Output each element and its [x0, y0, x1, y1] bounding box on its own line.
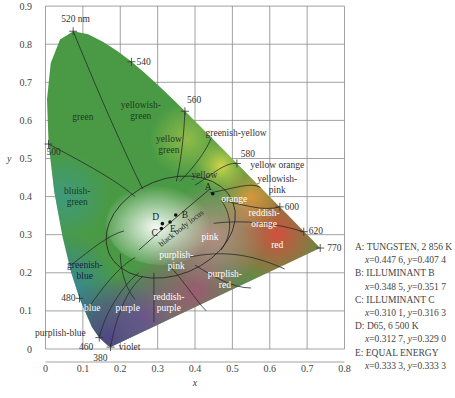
- svg-text:0.4: 0.4: [20, 191, 33, 202]
- svg-text:0.6: 0.6: [264, 363, 277, 374]
- svg-text:green: green: [158, 145, 179, 155]
- svg-text:0.6: 0.6: [20, 115, 33, 126]
- svg-text:violet: violet: [119, 342, 141, 352]
- svg-text:orange: orange: [221, 194, 247, 204]
- svg-text:0.8: 0.8: [20, 39, 33, 50]
- legend-entry-coords: x=0.348 5, y=0.351 7: [355, 281, 452, 294]
- svg-text:B: B: [182, 210, 188, 220]
- svg-text:purplish-: purplish-: [159, 250, 193, 260]
- svg-text:0.1: 0.1: [77, 363, 90, 374]
- svg-text:bluish-: bluish-: [64, 186, 90, 196]
- legend-entry-title: D: D65, 6 500 K: [355, 320, 452, 333]
- svg-text:480: 480: [61, 293, 76, 303]
- svg-text:0.3: 0.3: [151, 363, 164, 374]
- svg-text:620: 620: [309, 226, 324, 236]
- svg-text:0.7: 0.7: [301, 363, 314, 374]
- svg-text:reddish-: reddish-: [249, 208, 280, 218]
- svg-text:pink: pink: [202, 232, 219, 242]
- svg-text:500: 500: [46, 147, 61, 157]
- svg-text:0: 0: [27, 344, 32, 355]
- svg-text:0.4: 0.4: [189, 363, 202, 374]
- svg-text:0.3: 0.3: [20, 229, 33, 240]
- svg-text:D: D: [152, 212, 159, 222]
- svg-text:greenish-yellow: greenish-yellow: [206, 128, 267, 138]
- legend-entry-title: C: ILLUMINANT C: [355, 294, 452, 307]
- svg-text:0.9: 0.9: [20, 1, 33, 12]
- illuminant-legend: A: TUNGSTEN, 2 856 Kx=0.447 6, y=0.407 4…: [355, 241, 452, 373]
- svg-text:0.2: 0.2: [114, 363, 127, 374]
- svg-text:yellow orange: yellow orange: [250, 160, 304, 170]
- svg-text:A: A: [205, 182, 212, 192]
- svg-text:580: 580: [241, 149, 256, 159]
- svg-text:540: 540: [136, 57, 151, 67]
- svg-text:purplish-: purplish-: [208, 269, 242, 279]
- svg-text:blue: blue: [84, 303, 100, 313]
- svg-text:770: 770: [327, 243, 342, 253]
- svg-text:x: x: [192, 377, 198, 388]
- svg-text:yellow: yellow: [156, 134, 182, 144]
- svg-text:0: 0: [43, 363, 48, 374]
- svg-text:0.2: 0.2: [20, 267, 33, 278]
- svg-text:560: 560: [187, 95, 202, 105]
- svg-text:520 nm: 520 nm: [61, 14, 90, 24]
- svg-text:380: 380: [93, 353, 108, 363]
- svg-text:C: C: [151, 228, 157, 238]
- svg-text:reddish-: reddish-: [153, 292, 184, 302]
- svg-text:yellow: yellow: [191, 170, 217, 180]
- svg-text:green: green: [130, 111, 151, 121]
- svg-text:600: 600: [285, 202, 300, 212]
- legend-entry-coords: x=0.310 1, y=0.316 3: [355, 307, 452, 320]
- legend-entry-coords: x=0.447 6, y=0.407 4: [355, 254, 452, 267]
- svg-text:purple: purple: [157, 303, 181, 313]
- legend-entry-title: B: ILLUMINANT B: [355, 267, 452, 280]
- svg-text:greenish-: greenish-: [67, 260, 102, 270]
- legend-entry-coords: x=0.312 7, y=0.329 0: [355, 333, 452, 346]
- legend-entry-coords: x=0.333 3, y=0.333 3: [355, 360, 452, 373]
- svg-text:green: green: [72, 112, 93, 122]
- legend-entry-title: E: EQUAL ENERGY: [355, 347, 452, 360]
- svg-text:pink: pink: [168, 261, 185, 271]
- svg-text:pink: pink: [269, 185, 286, 195]
- svg-text:green: green: [67, 197, 88, 207]
- svg-text:E: E: [170, 224, 176, 234]
- svg-text:red: red: [271, 240, 283, 250]
- svg-text:purplish-blue: purplish-blue: [35, 328, 86, 338]
- svg-text:yellowish-: yellowish-: [121, 100, 161, 110]
- svg-text:0.8: 0.8: [338, 363, 351, 374]
- svg-text:y: y: [6, 153, 12, 164]
- svg-text:purple: purple: [116, 303, 140, 313]
- svg-text:0.1: 0.1: [20, 305, 33, 316]
- svg-text:460: 460: [79, 342, 94, 352]
- svg-text:orange: orange: [251, 219, 277, 229]
- legend-entry-title: A: TUNGSTEN, 2 856 K: [355, 241, 452, 254]
- svg-text:yellowish-: yellowish-: [257, 174, 297, 184]
- svg-text:0.7: 0.7: [20, 77, 33, 88]
- svg-text:0.5: 0.5: [20, 153, 33, 164]
- svg-text:blue: blue: [77, 271, 93, 281]
- svg-text:red: red: [219, 280, 231, 290]
- spectral-locus-fill: [1, 31, 337, 397]
- svg-text:0.5: 0.5: [226, 363, 239, 374]
